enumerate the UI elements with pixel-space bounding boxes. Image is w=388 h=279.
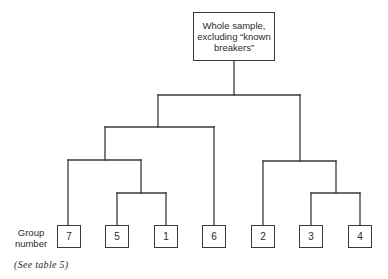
group-number-label: Group number bbox=[10, 227, 52, 249]
leaf-label: 5 bbox=[114, 231, 120, 242]
leaf-label: 1 bbox=[163, 231, 169, 242]
root-label-line-1: Whole sample, bbox=[197, 20, 270, 31]
leaf-node-group-3: 3 bbox=[299, 225, 323, 248]
group-label-line-1: Group bbox=[10, 227, 52, 238]
group-label-line-2: number bbox=[10, 238, 52, 249]
root-node-label: Whole sample, excluding “known breakers” bbox=[197, 20, 270, 53]
leaf-label: 6 bbox=[211, 231, 217, 242]
leaf-label: 2 bbox=[260, 231, 266, 242]
see-table-note: (See table 5) bbox=[14, 259, 68, 270]
leaf-node-group-4: 4 bbox=[348, 225, 372, 248]
dendrogram-canvas: Whole sample, excluding “known breakers”… bbox=[0, 0, 388, 279]
root-node-box: Whole sample, excluding “known breakers” bbox=[193, 12, 275, 61]
leaf-node-group-2: 2 bbox=[251, 225, 275, 248]
leaf-node-group-1: 1 bbox=[154, 225, 178, 248]
leaf-label: 7 bbox=[66, 231, 72, 242]
leaf-label: 3 bbox=[308, 231, 314, 242]
leaf-label: 4 bbox=[357, 231, 363, 242]
leaf-node-group-5: 5 bbox=[105, 225, 129, 248]
leaf-node-group-7: 7 bbox=[57, 225, 81, 248]
leaf-node-group-6: 6 bbox=[202, 225, 226, 248]
root-label-line-2: excluding “known bbox=[197, 31, 270, 42]
root-label-line-3: breakers” bbox=[197, 42, 270, 53]
